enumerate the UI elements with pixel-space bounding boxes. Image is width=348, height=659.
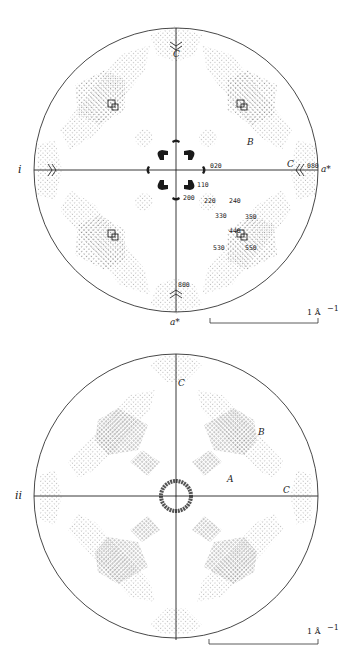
scale-bar-i: 1 Å −1 <box>210 304 339 323</box>
label-c-top-i: C <box>173 49 180 59</box>
index-label: 080 <box>307 162 319 170</box>
panel-label-i: i <box>18 163 22 176</box>
scale-bar-exponent: −1 <box>327 304 339 313</box>
label-a-star-right-i: a* <box>321 164 331 174</box>
index-label: 240 <box>229 197 241 205</box>
index-label: 440 <box>229 227 241 235</box>
scale-bar-label: 1 Å <box>307 627 321 636</box>
index-label: 220 <box>204 197 216 205</box>
diffraction-figure: i C C B a* a* 020 080 110 200 220 240 33… <box>0 0 348 659</box>
scale-bar-exponent: −1 <box>327 623 339 632</box>
panel-ii: ii C C A B 1 Å −1 <box>15 354 339 644</box>
index-label: 110 <box>197 181 209 189</box>
label-c-right-i: C <box>287 159 294 169</box>
index-label: 350 <box>245 213 257 221</box>
label-c-top-ii: C <box>178 378 185 388</box>
label-b-i: B <box>246 137 254 147</box>
panel-i: i C C B a* a* 020 080 110 200 220 240 33… <box>18 26 339 327</box>
label-c-right-ii: C <box>283 485 290 495</box>
scale-bar-ii: 1 Å −1 <box>209 623 339 644</box>
index-label: 200 <box>183 194 195 202</box>
index-label: 330 <box>215 212 227 220</box>
label-b-ii: B <box>257 427 265 437</box>
label-a-ii: A <box>226 474 234 484</box>
scale-bar-label: 1 Å <box>307 308 321 317</box>
index-label: 530 <box>213 244 225 252</box>
index-label: 550 <box>245 244 257 252</box>
index-label: 020 <box>210 162 222 170</box>
panel-label-ii: ii <box>15 489 22 502</box>
label-a-star-bottom-i: a* <box>170 317 180 327</box>
index-label: 800 <box>178 281 190 289</box>
